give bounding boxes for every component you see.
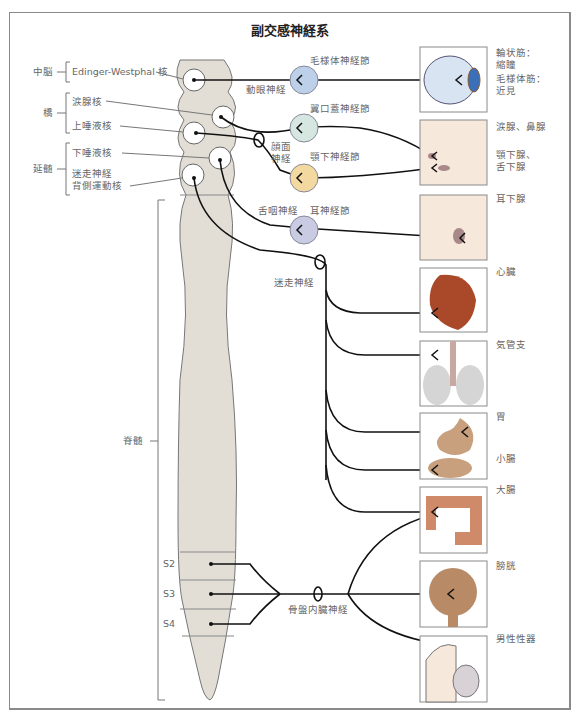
- organ-male-genitals: [420, 636, 487, 702]
- nerve-vagus: 迷走神経: [274, 277, 314, 289]
- nucleus-lacrimal: 涙腺核: [72, 96, 102, 108]
- organ-heart: [420, 268, 487, 332]
- target-parotid: 耳下腺: [496, 193, 526, 205]
- nucleus-edinger-westphal: Edinger-Westphal 核: [72, 66, 168, 78]
- target-eye-line1: 輪状筋：: [496, 47, 536, 59]
- target-bronchi: 気管支: [496, 339, 526, 351]
- region-spinal-cord: 脊髄: [123, 435, 143, 447]
- target-stomach: 胃: [496, 411, 506, 423]
- target-small-intestine: 小腸: [496, 453, 516, 465]
- target-bladder: 膀胱: [496, 560, 516, 572]
- nucleus-vagus-line2: 背側運動核: [72, 180, 122, 192]
- organ-eye: [420, 47, 487, 112]
- target-eye-line2: 縮瞳: [496, 59, 516, 71]
- region-midbrain: 中脳: [33, 66, 53, 78]
- organ-parotid: [420, 195, 487, 260]
- nerve-facial-line2: 神経: [271, 153, 291, 165]
- ganglion-ciliary: 毛様体神経節: [310, 55, 370, 67]
- nucleus-inferior-salivatory: 下唾液核: [72, 147, 112, 159]
- nucleus-vagus-line1: 迷走神経: [72, 168, 112, 180]
- nerve-glossopharyngeal: 舌咽神経: [258, 205, 298, 217]
- organ-bladder: [420, 561, 487, 627]
- organ-stomach-intestine: [420, 413, 487, 479]
- organ-colon: [420, 487, 487, 553]
- target-eye-line4: 近見: [496, 85, 516, 97]
- target-submandibular: 顎下腺、: [496, 149, 536, 161]
- target-sublingual: 舌下腺: [496, 161, 526, 173]
- nerve-facial-line1: 顔面: [271, 141, 291, 153]
- nucleus-superior-salivatory: 上唾液核: [72, 120, 112, 132]
- ganglion-submandibular: 顎下神経節: [310, 151, 360, 163]
- target-male-genitals: 男性性器: [496, 633, 536, 645]
- target-large-intestine: 大腸: [496, 484, 516, 496]
- sacral-s3: S3: [163, 588, 175, 600]
- sacral-s2: S2: [163, 558, 175, 570]
- sacral-s4: S4: [163, 618, 175, 630]
- region-medulla: 延髄: [33, 163, 53, 175]
- organ-face-glands: [420, 120, 487, 185]
- target-lacrimal-nasal: 涙腺、鼻腺: [496, 121, 546, 133]
- target-eye-line3: 毛様体筋：: [496, 73, 546, 85]
- region-pons: 橋: [43, 107, 53, 119]
- nerve-oculomotor: 動眼神経: [246, 84, 286, 96]
- nerve-pelvic-splanchnic: 骨盤内臓神経: [288, 604, 348, 616]
- target-heart: 心臓: [496, 266, 516, 278]
- ganglion-pterygopalatine: 翼口蓋神経節: [310, 103, 370, 115]
- organ-lungs: [420, 341, 487, 406]
- ganglion-otic: 耳神経節: [310, 205, 350, 217]
